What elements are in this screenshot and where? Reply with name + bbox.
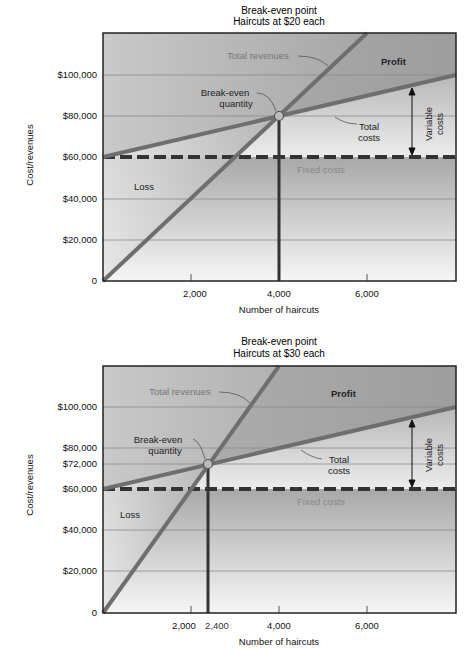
label-variable-2: costs — [434, 444, 445, 466]
svg-text:$20,000: $20,000 — [63, 234, 97, 245]
x-axis-title: Number of haircuts — [239, 304, 320, 315]
break-even-chart-20: Break-even point Haircuts at $20 each — [0, 0, 476, 324]
label-total-revenues: Total revenues — [227, 50, 289, 61]
label-total-costs-1: Total — [359, 121, 379, 132]
y-axis-title: Cost/revenues — [24, 124, 35, 186]
svg-text:6,000: 6,000 — [355, 620, 379, 631]
svg-text:2,000: 2,000 — [172, 620, 196, 631]
label-fixed-costs: Fixed costs — [297, 164, 345, 175]
svg-text:$20,000: $20,000 — [63, 565, 97, 576]
label-loss: Loss — [134, 181, 154, 192]
label-break-even-1: Break-even — [201, 87, 250, 98]
chart-title: Break-even point — [241, 336, 317, 347]
label-total-revenues: Total revenues — [149, 386, 211, 397]
break-even-point — [204, 460, 213, 469]
svg-text:2,400: 2,400 — [205, 620, 229, 631]
break-even-chart-30: Break-even point Haircuts at $30 each To… — [0, 324, 476, 648]
label-total-costs-2: costs — [328, 465, 350, 476]
y-axis-title: Cost/revenues — [24, 454, 35, 516]
label-break-even-2: quantity — [148, 445, 182, 456]
svg-text:$80,000: $80,000 — [63, 110, 97, 121]
svg-text:0: 0 — [92, 275, 97, 286]
svg-text:$60,000: $60,000 — [63, 151, 97, 162]
label-profit: Profit — [331, 388, 357, 399]
label-fixed-costs: Fixed costs — [297, 496, 345, 507]
svg-text:0: 0 — [92, 607, 97, 618]
svg-text:$60,000: $60,000 — [63, 483, 97, 494]
chart-title: Break-even point — [241, 5, 317, 16]
svg-text:$40,000: $40,000 — [63, 193, 97, 204]
svg-text:2,000: 2,000 — [183, 288, 207, 299]
label-variable-1: Variable — [423, 107, 434, 141]
y-axis-labels: $100,000 $80,000 $60,000 $40,000 $20,000… — [57, 69, 97, 286]
label-total-costs-1: Total — [329, 454, 349, 465]
x-axis-labels: 2,000 4,000 6,000 — [183, 288, 379, 299]
chart-subtitle: Haircuts at $20 each — [233, 16, 325, 27]
svg-text:4,000: 4,000 — [267, 288, 291, 299]
svg-text:$100,000: $100,000 — [57, 69, 97, 80]
svg-text:4,000: 4,000 — [267, 620, 291, 631]
label-total-costs-2: costs — [358, 132, 380, 143]
label-break-even-2: quantity — [219, 98, 253, 109]
svg-text:$100,000: $100,000 — [57, 401, 97, 412]
break-even-point — [275, 112, 284, 121]
x-axis-labels: 2,000 2,400 4,000 6,000 — [172, 620, 379, 631]
svg-text:$80,000: $80,000 — [63, 442, 97, 453]
svg-text:$40,000: $40,000 — [63, 524, 97, 535]
label-profit: Profit — [381, 56, 407, 67]
label-variable-1: Variable — [423, 438, 434, 472]
x-axis-title: Number of haircuts — [239, 636, 320, 647]
chart-subtitle: Haircuts at $30 each — [233, 348, 325, 359]
y-axis-labels: $100,000 $80,000 $72,000 $60,000 $40,000… — [57, 401, 97, 618]
svg-text:6,000: 6,000 — [355, 288, 379, 299]
svg-text:$72,000: $72,000 — [63, 458, 97, 469]
label-loss: Loss — [120, 509, 140, 520]
label-variable-2: costs — [434, 113, 445, 135]
label-break-even-1: Break-even — [134, 434, 183, 445]
